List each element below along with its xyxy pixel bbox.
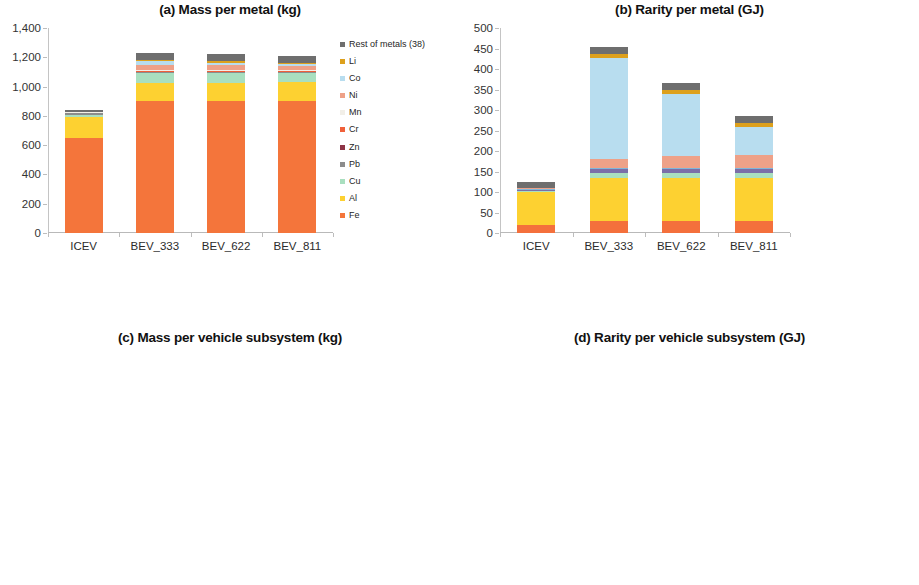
bar-segment-rest-of-metals-40[interactable] — [590, 47, 628, 54]
bar-segment-al[interactable] — [65, 117, 103, 138]
legend-item-cu[interactable]: Cu — [340, 177, 425, 186]
legend-swatch-icon — [340, 110, 345, 115]
legend-swatch-icon — [340, 145, 345, 150]
bar-segment-al[interactable] — [278, 82, 316, 101]
bar-segment-rest-of-metals-38[interactable] — [207, 54, 245, 61]
bar-segment-fe[interactable] — [735, 221, 773, 233]
bar-segment-al[interactable] — [590, 178, 628, 221]
legend-item-rest-of-metals-38[interactable]: Rest of metals (38) — [340, 40, 425, 49]
bar-segment-al[interactable] — [207, 83, 245, 102]
legend-label: Ni — [349, 91, 358, 100]
bar-segment-fe[interactable] — [65, 138, 103, 233]
legend-label: Rest of metals (38) — [349, 40, 425, 49]
bar-segment-cu[interactable] — [278, 73, 316, 82]
bar-segment-fe[interactable] — [517, 225, 555, 233]
x-axis-label-a: BEV_811 — [274, 240, 322, 252]
bar-a-icev[interactable] — [65, 110, 103, 233]
legend-label: Cr — [349, 125, 359, 134]
legend-item-li[interactable]: Li — [340, 57, 425, 66]
legend-a: Rest of metals (38)LiCoNiMnCrZnPbCuAlFe — [340, 40, 425, 220]
x-tick-mark-b — [645, 233, 646, 237]
legend-item-cr[interactable]: Cr — [340, 125, 425, 134]
legend-swatch-icon — [340, 162, 345, 167]
x-axis-label-a: BEV_622 — [202, 240, 251, 252]
y-tick-label-b: 450 — [474, 43, 500, 55]
panel-d: (d) Rarity per vehicle subsystem (GJ) 05… — [460, 290, 919, 585]
bar-b-bev_622[interactable] — [662, 83, 700, 233]
legend-item-fe[interactable]: Fe — [340, 211, 425, 220]
bar-a-bev_333[interactable] — [136, 52, 174, 233]
legend-item-pb[interactable]: Pb — [340, 160, 425, 169]
bar-b-icev[interactable] — [517, 182, 555, 233]
bar-a-bev_622[interactable] — [207, 54, 245, 233]
legend-label: Fe — [349, 211, 360, 220]
chart-title-d: (d) Rarity per vehicle subsystem (GJ) — [460, 330, 919, 345]
bar-segment-al[interactable] — [735, 178, 773, 221]
legend-item-mn[interactable]: Mn — [340, 108, 425, 117]
legend-label: Li — [349, 57, 356, 66]
bar-a-bev_811[interactable] — [278, 56, 316, 233]
y-tick-label-a: 400 — [22, 168, 48, 180]
bar-segment-co[interactable] — [662, 94, 700, 156]
bar-segment-fe[interactable] — [590, 221, 628, 233]
legend-label: Mn — [349, 108, 362, 117]
bar-segment-fe[interactable] — [207, 101, 245, 233]
legend-label: Co — [349, 74, 361, 83]
x-tick-mark-a — [119, 233, 120, 237]
bar-segment-fe[interactable] — [136, 101, 174, 233]
bar-segment-al[interactable] — [517, 192, 555, 224]
chart-title-a: (a) Mass per metal (kg) — [0, 2, 460, 17]
x-tick-mark-a — [48, 233, 49, 237]
y-axis-b — [500, 28, 501, 233]
y-tick-label-a: 1,000 — [12, 81, 48, 93]
x-tick-mark-b — [500, 233, 501, 237]
bar-b-bev_811[interactable] — [735, 116, 773, 233]
bar-segment-ni[interactable] — [735, 155, 773, 168]
chart-title-c: (c) Mass per vehicle subsystem (kg) — [0, 330, 460, 345]
legend-item-ni[interactable]: Ni — [340, 91, 425, 100]
x-tick-mark-a — [333, 233, 334, 237]
bar-segment-fe[interactable] — [278, 101, 316, 233]
legend-item-al[interactable]: Al — [340, 194, 425, 203]
legend-swatch-icon — [340, 213, 345, 218]
legend-item-co[interactable]: Co — [340, 74, 425, 83]
x-tick-mark-b — [573, 233, 574, 237]
legend-label: Al — [349, 194, 357, 203]
y-tick-label-b: 100 — [474, 186, 500, 198]
x-axis-label-a: BEV_333 — [131, 240, 180, 252]
legend-swatch-icon — [340, 93, 345, 98]
y-tick-label-b: 300 — [474, 104, 500, 116]
y-tick-label-a: 1,200 — [12, 51, 48, 63]
figure-grid: (a) Mass per metal (kg) 02004006008001,0… — [0, 0, 919, 585]
bar-segment-ni[interactable] — [590, 159, 628, 168]
bar-segment-cu[interactable] — [136, 73, 174, 82]
bar-segment-rest-of-metals-40[interactable] — [662, 83, 700, 90]
x-axis-label-b: ICEV — [523, 240, 550, 252]
bar-segment-cu[interactable] — [207, 73, 245, 82]
y-tick-label-a: 0 — [35, 227, 48, 239]
y-tick-label-b: 400 — [474, 63, 500, 75]
y-tick-label-b: 250 — [474, 125, 500, 137]
legend-label: Zn — [349, 143, 360, 152]
bar-segment-co[interactable] — [590, 58, 628, 159]
y-tick-label-b: 200 — [474, 145, 500, 157]
panel-b: (b) Rarity per metal (GJ) 05010015020025… — [460, 0, 919, 290]
y-tick-label-b: 50 — [480, 207, 500, 219]
bar-segment-al[interactable] — [662, 178, 700, 221]
legend-swatch-icon — [340, 196, 345, 201]
bar-b-bev_333[interactable] — [590, 47, 628, 233]
bar-segment-co[interactable] — [735, 127, 773, 155]
x-axis-label-b: BEV_622 — [657, 240, 706, 252]
bar-segment-fe[interactable] — [662, 221, 700, 233]
bar-segment-rest-of-metals-40[interactable] — [735, 116, 773, 123]
plot-area-b: 050100150200250300350400450500ICEVBEV_33… — [500, 28, 790, 233]
bar-segment-ni[interactable] — [662, 156, 700, 168]
x-axis-label-b: BEV_333 — [584, 240, 633, 252]
bar-segment-al[interactable] — [136, 83, 174, 102]
bar-segment-rest-of-metals-38[interactable] — [136, 53, 174, 60]
y-tick-label-b: 150 — [474, 166, 500, 178]
bar-segment-rest-of-metals-38[interactable] — [278, 56, 316, 63]
plot-area-a: 02004006008001,0001,2001,400ICEVBEV_333B… — [48, 28, 333, 233]
legend-label: Pb — [349, 160, 360, 169]
legend-item-zn[interactable]: Zn — [340, 143, 425, 152]
